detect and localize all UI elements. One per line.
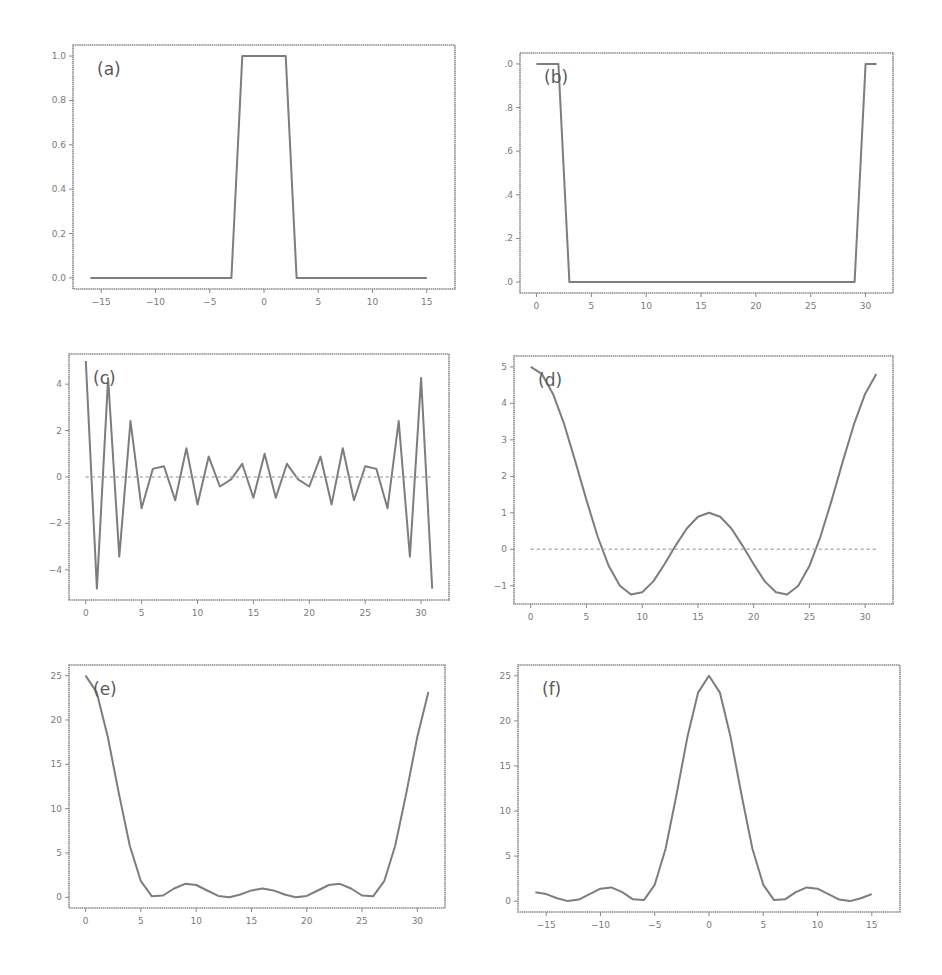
- x-tick-label: 0: [83, 608, 89, 618]
- y-tick-label: 10: [51, 804, 63, 814]
- x-tick-label: 30: [859, 612, 871, 622]
- x-tick-label: 15: [692, 612, 703, 622]
- x-tick-label: 10: [190, 916, 202, 926]
- x-tick-label: 25: [805, 301, 816, 311]
- y-tick-label: .0: [504, 277, 513, 287]
- y-tick-label: 20: [500, 716, 512, 726]
- x-tick-label: 20: [750, 301, 762, 311]
- x-tick-label: 10: [367, 297, 379, 307]
- x-tick-label: 20: [301, 916, 313, 926]
- y-tick-label: 0: [505, 896, 511, 906]
- figure: −15−10−50510150.00.20.40.60.81.0(a) 0510…: [0, 0, 942, 975]
- x-tick-label: 5: [139, 608, 145, 618]
- y-tick-label: 4: [501, 398, 507, 408]
- x-tick-label: 30: [860, 301, 872, 311]
- panel-f-label: (f): [542, 679, 561, 699]
- x-tick-label: 30: [412, 916, 424, 926]
- y-tick-label: 1.0: [52, 51, 67, 61]
- y-tick-label: 5: [505, 851, 511, 861]
- x-tick-label: 10: [192, 608, 204, 618]
- x-tick-label: 15: [866, 920, 877, 930]
- y-tick-label: 3: [501, 435, 507, 445]
- y-tick-label: 25: [500, 671, 511, 681]
- x-tick-label: 20: [304, 608, 316, 618]
- panel-d-label: (d): [538, 370, 562, 390]
- x-tick-label: 15: [248, 608, 259, 618]
- y-tick-label: 0.4: [52, 184, 67, 194]
- panel-a-label: (a): [97, 59, 121, 79]
- y-tick-label: 4: [56, 379, 62, 389]
- x-tick-label: 5: [588, 301, 594, 311]
- x-tick-label: 5: [138, 916, 144, 926]
- x-tick-label: −5: [648, 920, 661, 930]
- y-tick-label: .0: [504, 59, 513, 69]
- x-tick-label: 0: [528, 612, 534, 622]
- x-tick-label: 0: [261, 297, 267, 307]
- panel-c-label: (c): [93, 368, 116, 388]
- y-tick-label: 0: [56, 892, 62, 902]
- x-tick-label: −15: [537, 920, 556, 930]
- x-tick-label: 20: [748, 612, 760, 622]
- x-tick-label: 30: [415, 608, 427, 618]
- x-tick-label: 25: [359, 608, 370, 618]
- y-tick-label: −2: [49, 518, 62, 528]
- y-tick-label: 25: [51, 671, 62, 681]
- x-tick-label: 0: [706, 920, 712, 930]
- y-tick-label: 5: [501, 362, 507, 372]
- x-tick-label: 5: [584, 612, 590, 622]
- y-tick-label: −4: [49, 565, 63, 575]
- y-tick-label: 15: [51, 759, 62, 769]
- y-tick-label: 20: [51, 715, 63, 725]
- y-tick-label: 10: [500, 806, 512, 816]
- x-tick-label: 25: [356, 916, 367, 926]
- x-tick-label: 0: [534, 301, 540, 311]
- figure-background: [0, 0, 942, 975]
- x-tick-label: 10: [640, 301, 652, 311]
- x-tick-label: 10: [812, 920, 824, 930]
- y-tick-label: 0: [56, 472, 62, 482]
- y-tick-label: 0.6: [52, 140, 67, 150]
- x-tick-label: 0: [83, 916, 89, 926]
- x-tick-label: −15: [92, 297, 111, 307]
- y-tick-label: 0.0: [52, 273, 67, 283]
- x-tick-label: 15: [246, 916, 257, 926]
- x-tick-label: 25: [804, 612, 815, 622]
- y-tick-label: 5: [56, 848, 62, 858]
- y-tick-label: .6: [504, 146, 513, 156]
- y-tick-label: 0.8: [52, 95, 67, 105]
- x-tick-label: 15: [695, 301, 706, 311]
- y-tick-label: 2: [56, 426, 62, 436]
- y-tick-label: .2: [504, 233, 513, 243]
- x-tick-label: 5: [315, 297, 321, 307]
- x-tick-label: −10: [591, 920, 610, 930]
- x-tick-label: 15: [421, 297, 432, 307]
- x-tick-label: 5: [760, 920, 766, 930]
- y-tick-label: 2: [501, 471, 507, 481]
- y-tick-label: 0: [501, 544, 507, 554]
- x-tick-label: 10: [636, 612, 648, 622]
- y-tick-label: 0.2: [52, 229, 66, 239]
- panel-e-label: (e): [93, 679, 117, 699]
- panel-b-label: (b): [544, 67, 568, 87]
- x-tick-label: −10: [146, 297, 165, 307]
- y-tick-label: 1: [501, 508, 507, 518]
- y-tick-label: .8: [504, 103, 513, 113]
- y-tick-label: 15: [500, 761, 511, 771]
- x-tick-label: −5: [203, 297, 216, 307]
- y-tick-label: −1: [494, 581, 507, 591]
- y-tick-label: .4: [504, 190, 513, 200]
